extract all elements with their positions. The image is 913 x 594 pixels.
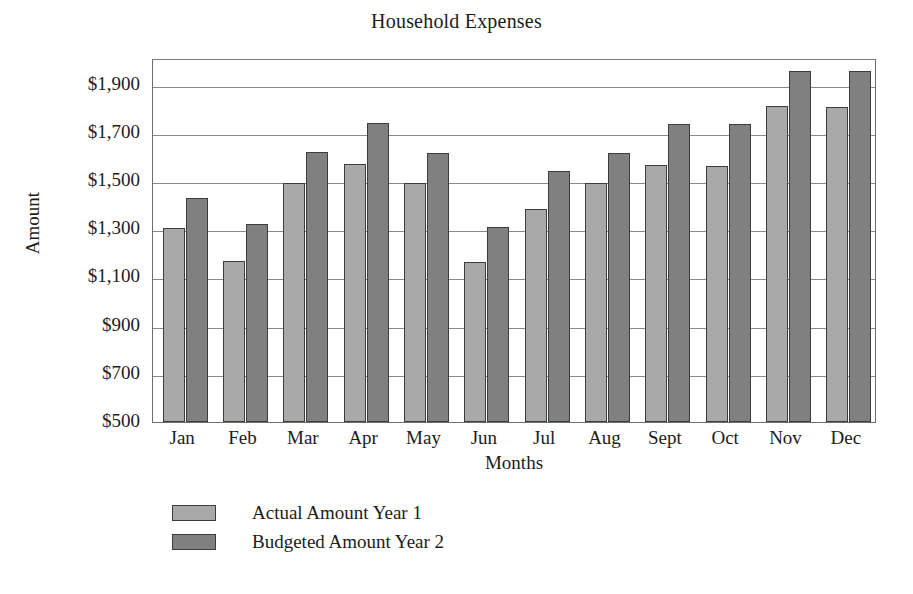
bar-group	[706, 60, 751, 422]
bar	[548, 171, 570, 422]
bar-group	[404, 60, 449, 422]
plot-area	[152, 59, 876, 423]
y-axis-tick-label: $500	[28, 410, 140, 432]
bar	[344, 164, 366, 422]
bar	[585, 183, 607, 422]
legend-item: Actual Amount Year 1	[172, 498, 444, 527]
bar	[487, 227, 509, 422]
bar	[464, 262, 486, 422]
y-axis-tick-label: $1,500	[28, 169, 140, 191]
bar	[826, 107, 848, 422]
y-axis-tick-label: $1,900	[28, 73, 140, 95]
bar	[223, 261, 245, 423]
bar	[608, 153, 630, 422]
household-expenses-bar-chart: Household Expenses Amount $500$700$900$1…	[0, 0, 913, 594]
y-axis-title: Amount	[22, 168, 44, 278]
bar	[427, 153, 449, 422]
bar-group	[645, 60, 690, 422]
bar	[668, 124, 690, 422]
chart-title: Household Expenses	[0, 10, 913, 33]
bar	[706, 166, 728, 422]
legend-label: Actual Amount Year 1	[252, 502, 422, 524]
bar	[849, 71, 871, 422]
bar	[186, 198, 208, 422]
bar	[645, 165, 667, 422]
y-axis-tick-label: $900	[28, 314, 140, 336]
x-axis-tick-label: Dec	[811, 427, 881, 449]
bar-group	[826, 60, 871, 422]
bar	[729, 124, 751, 422]
legend-item: Budgeted Amount Year 2	[172, 527, 444, 556]
y-axis-tick-label: $1,700	[28, 121, 140, 143]
bar-group	[585, 60, 630, 422]
bar-group	[283, 60, 328, 422]
x-axis-title: Months	[152, 452, 876, 474]
y-axis-tick-label: $1,300	[28, 217, 140, 239]
bar	[367, 123, 389, 422]
legend-label: Budgeted Amount Year 2	[252, 531, 444, 553]
bar	[163, 228, 185, 422]
legend-swatch	[172, 505, 216, 521]
bar-group	[525, 60, 570, 422]
y-axis-tick-label: $700	[28, 362, 140, 384]
bar-group	[163, 60, 208, 422]
bar	[525, 209, 547, 422]
bar	[789, 71, 811, 422]
bar-group	[344, 60, 389, 422]
bar	[766, 106, 788, 422]
bar-group	[223, 60, 268, 422]
bar	[306, 152, 328, 422]
chart-legend: Actual Amount Year 1Budgeted Amount Year…	[172, 498, 444, 556]
legend-swatch	[172, 534, 216, 550]
y-axis-tick-label: $1,100	[28, 265, 140, 287]
bar	[283, 183, 305, 422]
bar	[404, 183, 426, 422]
bar-group	[766, 60, 811, 422]
bar-group	[464, 60, 509, 422]
bar	[246, 224, 268, 422]
